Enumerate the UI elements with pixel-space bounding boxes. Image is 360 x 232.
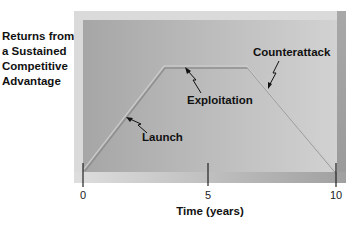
annotation-exploitation: Exploitation bbox=[187, 94, 253, 106]
annotation-launch: Launch bbox=[142, 131, 183, 143]
x-tick-label-10: 10 bbox=[330, 189, 342, 201]
x-tick-label-0: 0 bbox=[80, 189, 86, 201]
plot-frame-bottom bbox=[74, 172, 346, 183]
x-axis-title: Time (years) bbox=[176, 205, 244, 217]
annotation-counterattack: Counterattack bbox=[253, 46, 330, 58]
plot-area bbox=[0, 0, 360, 232]
plot-frame-right bbox=[337, 11, 346, 183]
x-tick-label-5: 5 bbox=[205, 189, 211, 201]
